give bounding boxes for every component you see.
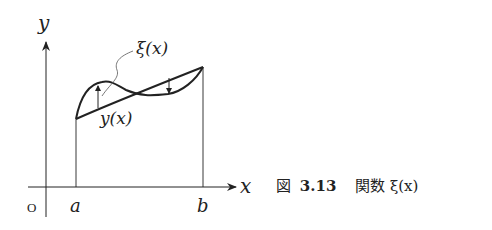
xi-leader-line <box>102 51 133 96</box>
origin-label: O <box>27 200 36 215</box>
x-axis-label: x <box>240 174 251 198</box>
xi-label: ξ(x) <box>136 38 168 58</box>
y-curve-label: y(x) <box>99 108 132 128</box>
figure-number: 3.13 <box>300 177 337 195</box>
y-curve <box>76 67 203 119</box>
figure-prefix: 図 <box>276 177 291 195</box>
figure-caption: 図 3.13 関数 ξ(x) <box>276 174 418 195</box>
y-axis-label: y <box>37 11 50 35</box>
figure-title: 関数 ξ(x) <box>355 177 418 195</box>
diagram-canvas: y x O a b ξ(x) y(x) <box>0 0 492 230</box>
b-label: b <box>197 195 209 216</box>
a-label: a <box>70 195 81 216</box>
